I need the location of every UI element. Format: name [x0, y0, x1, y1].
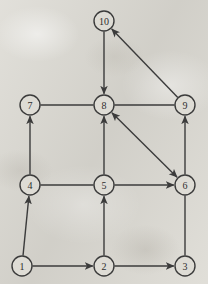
graph-node-2[interactable]: 2	[94, 256, 114, 276]
graph-node-7[interactable]: 7	[20, 95, 40, 115]
edge-layer	[23, 29, 185, 266]
graph-node-1[interactable]: 1	[12, 256, 32, 276]
graph-node-label-2: 2	[102, 261, 107, 272]
graph-node-5[interactable]: 5	[94, 175, 114, 195]
graph-node-label-7: 7	[28, 100, 33, 111]
graph-node-label-1: 1	[20, 261, 25, 272]
graph-diagram-canvas: 12345678910	[0, 0, 208, 284]
graph-edge-8-6	[112, 113, 177, 177]
graph-node-9[interactable]: 9	[175, 95, 195, 115]
graph-node-label-4: 4	[28, 180, 33, 191]
graph-node-4[interactable]: 4	[20, 175, 40, 195]
graph-node-label-5: 5	[102, 180, 107, 191]
graph-node-label-8: 8	[102, 100, 107, 111]
graph-node-label-10: 10	[99, 16, 109, 27]
graph-node-label-6: 6	[183, 180, 188, 191]
graph-svg: 12345678910	[0, 0, 208, 284]
graph-edge-9-10	[112, 29, 178, 97]
graph-node-label-3: 3	[183, 261, 188, 272]
graph-node-8[interactable]: 8	[94, 95, 114, 115]
graph-edge-1-4	[23, 196, 29, 256]
graph-node-3[interactable]: 3	[175, 256, 195, 276]
graph-node-6[interactable]: 6	[175, 175, 195, 195]
graph-node-label-9: 9	[183, 100, 188, 111]
graph-node-10[interactable]: 10	[94, 11, 114, 31]
